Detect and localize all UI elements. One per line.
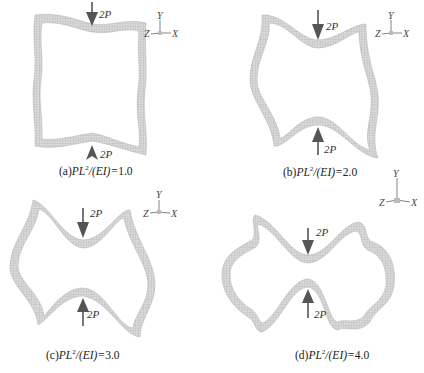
figure-canvas: 2P 2P Y Z X 2P 2P (0, 0, 424, 373)
load-arrow-top-c (77, 208, 89, 238)
caption-c: (c)PL2/(EI)=3.0 (46, 348, 120, 361)
caption-mid-b: /(EI)= (313, 166, 342, 178)
axis-x-label-b: X (402, 28, 410, 39)
caption-label-b: (b) (283, 166, 296, 178)
load-arrow-bottom-d (302, 289, 314, 318)
load-label-bottom-a: 2P (100, 148, 113, 160)
axis-y-label-c: Y (156, 189, 163, 200)
caption-expr-d: PL (308, 349, 321, 361)
axis-x-label-c: X (170, 208, 178, 219)
panel-c: 2P 2P Y Z X (10, 189, 178, 337)
axis-z-label-a: Z (144, 28, 150, 39)
caption-mid-c: /(EI)= (76, 349, 105, 361)
caption-value-a: 1.0 (118, 165, 132, 177)
caption-mid-a: /(EI)= (89, 165, 118, 177)
deformed-frame-b (250, 15, 378, 158)
load-label-bottom-c: 2P (87, 308, 100, 320)
load-label-bottom-b: 2P (324, 143, 337, 155)
axis-x-label-a: X (171, 28, 179, 39)
caption-label-a: (a) (59, 165, 72, 177)
axis-y-label-a: Y (157, 10, 164, 21)
load-arrow-top-d (302, 228, 314, 255)
axis-y-label-b: Y (388, 10, 395, 21)
panel-d: 2P 2P Y Z X (222, 168, 418, 332)
axis-triad-c: Y Z X (143, 189, 178, 219)
load-label-top-a: 2P (99, 8, 112, 20)
axis-z-label-b: Z (375, 28, 381, 39)
caption-value-b: 2.0 (343, 166, 357, 178)
axis-x-label-d: X (410, 197, 418, 208)
caption-b: (b)PL2/(EI)=2.0 (283, 165, 357, 178)
caption-a: (a)PL2/(EI)=1.0 (59, 164, 133, 177)
load-arrow-top-a (86, 2, 98, 26)
load-label-top-b: 2P (326, 20, 339, 32)
caption-expr-b: PL (296, 166, 309, 178)
axis-y-label-d: Y (393, 168, 400, 179)
axis-z-label-c: Z (143, 208, 149, 219)
load-label-bottom-d: 2P (314, 308, 327, 320)
axis-z-label-d: Z (379, 197, 385, 208)
caption-expr-a: PL (72, 165, 85, 177)
caption-value-d: 4.0 (355, 349, 369, 361)
axis-triad-b: Y Z X (375, 10, 410, 39)
load-arrow-bottom-b (312, 127, 324, 155)
panel-b: 2P 2P Y Z X (250, 10, 410, 158)
axis-triad-a: Y Z X (144, 10, 179, 39)
deformed-frame-a (33, 14, 146, 155)
load-label-top-c: 2P (90, 207, 103, 219)
caption-label-d: (d) (295, 349, 308, 361)
caption-d: (d)PL2/(EI)=4.0 (295, 348, 369, 361)
load-label-top-d: 2P (316, 226, 329, 238)
axis-triad-d: Y Z X (379, 168, 418, 208)
load-arrow-top-b (312, 10, 324, 40)
panel-a: 2P 2P Y Z X (33, 2, 179, 160)
caption-mid-d: /(EI)= (325, 349, 354, 361)
caption-value-c: 3.0 (105, 349, 119, 361)
load-arrow-bottom-a (86, 145, 98, 160)
caption-label-c: (c) (46, 349, 59, 361)
caption-expr-c: PL (59, 349, 72, 361)
